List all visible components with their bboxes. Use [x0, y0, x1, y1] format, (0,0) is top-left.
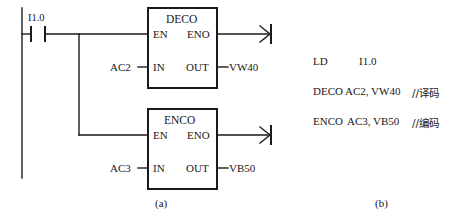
- caption-a: (a): [155, 198, 167, 209]
- stl-comment-3: //编码: [412, 115, 439, 130]
- stl-operands-2: AC2, VW40: [345, 85, 400, 97]
- enco-pin-out: OUT: [186, 163, 209, 174]
- stl-line-2: DECO AC2, VW40 //译码: [313, 85, 458, 115]
- enco-pin-en: EN: [153, 130, 168, 141]
- stl-operands-3: AC3, VB50: [347, 115, 399, 127]
- deco-pin-in: IN: [153, 62, 165, 73]
- enco-pin-eno: ENO: [187, 130, 210, 141]
- stl-operands-1: I1.0: [359, 55, 376, 67]
- stl-mnemonic-3: ENCO: [313, 115, 343, 127]
- stl-mnemonic-2: DECO: [313, 85, 343, 97]
- figure-root: I1.0 DECO EN ENO IN OUT AC2 VW40 ENCO EN…: [0, 0, 460, 222]
- enco-input-operand-ac3: AC3: [110, 163, 131, 174]
- enco-pin-in: IN: [153, 163, 165, 174]
- deco-pin-out: OUT: [186, 62, 209, 73]
- stl-comment-2: //译码: [412, 85, 439, 100]
- stl-mnemonic-1: LD: [313, 55, 328, 67]
- deco-block-title: DECO: [166, 14, 197, 26]
- enco-block-title: ENCO: [164, 115, 195, 127]
- enco-output-operand-vb50: VB50: [229, 163, 255, 174]
- caption-b: (b): [375, 198, 388, 209]
- deco-input-operand-ac2: AC2: [110, 62, 131, 73]
- deco-pin-eno: ENO: [187, 29, 210, 40]
- stl-listing: LD I1.0 DECO AC2, VW40 //译码 ENCO AC3, VB…: [313, 55, 458, 145]
- stl-line-1: LD I1.0: [313, 55, 458, 85]
- stl-line-3: ENCO AC3, VB50 //编码: [313, 115, 458, 145]
- deco-pin-en: EN: [153, 29, 168, 40]
- contact-label-i1-0: I1.0: [28, 13, 45, 24]
- deco-output-operand-vw40: VW40: [229, 62, 258, 73]
